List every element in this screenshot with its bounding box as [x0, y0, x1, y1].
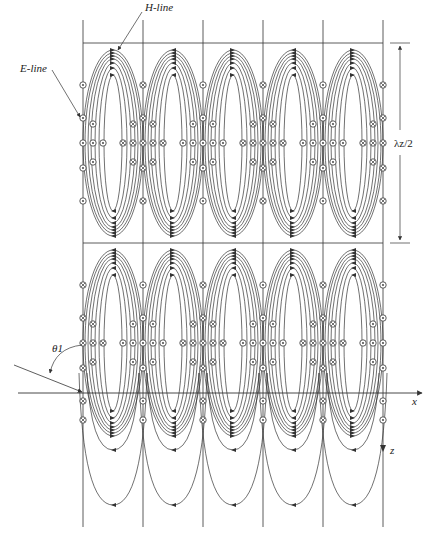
e-field-cross-icon [240, 140, 246, 146]
e-field-cross-icon [310, 321, 316, 327]
e-field-cross-icon [260, 198, 266, 204]
arrowhead [231, 273, 236, 277]
e-field-cross-icon [370, 140, 376, 146]
e-field-cross-icon [150, 159, 156, 165]
e-field-cross-icon [310, 359, 316, 365]
arrowhead [110, 48, 115, 52]
e-field-cross-icon [250, 140, 256, 146]
e-field-cross-icon [90, 359, 96, 365]
e-field-dot-icon [330, 159, 336, 165]
e-field-dot-icon [210, 140, 216, 146]
e-field-dot-icon [180, 140, 186, 146]
e-field-cross-icon [140, 165, 146, 171]
arrowhead [110, 416, 115, 420]
arrowhead [170, 248, 175, 252]
e-field-dot-icon [80, 198, 86, 204]
e-line-label: E-line [20, 62, 47, 74]
e-field-dot-icon [150, 359, 156, 365]
e-field-cross-icon [90, 340, 96, 346]
e-field-cross-icon [380, 198, 386, 204]
e-field-cross-icon [260, 140, 266, 146]
e-field-dot-icon [310, 121, 316, 127]
e-field-cross-icon [140, 82, 146, 88]
arrowhead [290, 273, 295, 277]
arrowhead [291, 61, 296, 65]
arrowhead [351, 221, 356, 225]
e-field-dot-icon [250, 340, 256, 346]
arrowhead [290, 261, 295, 265]
e-field-dot-icon [310, 159, 316, 165]
e-field-cross-icon [80, 282, 86, 288]
e-field-cross-icon [130, 140, 136, 146]
theta-label: θ1 [52, 342, 63, 354]
e-field-cross-icon [180, 340, 186, 346]
e-field-dot-icon [330, 140, 336, 146]
e-field-dot-icon [320, 165, 326, 171]
e-field-cross-icon [80, 417, 86, 423]
e-field-cross-icon [200, 398, 206, 404]
z-axis-label: z [390, 444, 394, 456]
arrowhead [290, 266, 295, 270]
h-field-loop [344, 75, 362, 211]
arrowhead [171, 434, 176, 438]
arrowhead [291, 409, 296, 413]
e-field-cross-icon [380, 115, 386, 121]
h-field-loop [224, 275, 242, 411]
arrowhead [351, 448, 356, 452]
e-field-cross-icon [300, 340, 306, 346]
arrowhead [111, 221, 116, 225]
e-field-dot-icon [330, 121, 336, 127]
e-field-dot-icon [300, 140, 306, 146]
e-field-dot-icon [260, 417, 266, 423]
arrowhead [350, 73, 355, 77]
arrowhead [111, 261, 116, 265]
e-field-cross-icon [80, 365, 86, 371]
e-field-dot-icon [380, 340, 386, 346]
h-field-loop [284, 75, 302, 211]
e-field-dot-icon [270, 359, 276, 365]
arrowhead [291, 73, 296, 77]
e-field-dot-icon [340, 140, 346, 146]
e-field-cross-icon [250, 121, 256, 127]
e-field-dot-icon [260, 315, 266, 321]
e-field-dot-icon [370, 321, 376, 327]
arrowhead [110, 61, 115, 65]
boundary-lines [18, 20, 422, 527]
arrowhead [230, 73, 235, 77]
arrowhead [231, 448, 236, 452]
arrowhead [351, 266, 356, 270]
e-field-dot-icon [80, 115, 86, 121]
e-field-dot-icon [320, 140, 326, 146]
arrowhead [230, 421, 235, 425]
e-field-cross-icon [380, 82, 386, 88]
e-field-cross-icon [80, 315, 86, 321]
h-field-loop [284, 275, 302, 411]
arrowhead [111, 248, 116, 252]
e-field-dot-icon [260, 365, 266, 371]
e-field-dot-icon [190, 140, 196, 146]
e-field-cross-icon [370, 159, 376, 165]
e-field-cross-icon [330, 340, 336, 346]
e-field-cross-icon [100, 340, 106, 346]
arrowhead [171, 409, 176, 413]
h-field-loop [164, 75, 182, 211]
arrowhead [351, 248, 356, 252]
e-field-dot-icon [150, 321, 156, 327]
arrowhead [170, 221, 175, 225]
e-field-dot-icon [200, 115, 206, 121]
field-lines [79, 48, 387, 507]
arrowhead [291, 48, 296, 52]
arrowhead [111, 503, 116, 507]
e-field-dot-icon [380, 417, 386, 423]
e-field-dot-icon [80, 82, 86, 88]
e-field-cross-icon [330, 321, 336, 327]
arrowhead [350, 409, 355, 413]
e-field-dot-icon [80, 140, 86, 146]
arrowhead [111, 216, 116, 220]
arrowhead [170, 266, 175, 270]
arrowhead [351, 503, 356, 507]
arrowhead [171, 61, 176, 65]
h-field-loop [331, 259, 375, 427]
e-field-dot-icon [140, 417, 146, 423]
e-field-cross-icon [360, 140, 366, 146]
